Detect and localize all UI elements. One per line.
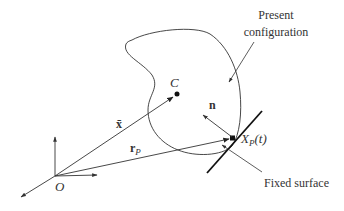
fixed-surface-label: Fixed surface <box>264 176 329 190</box>
present-config-label-line1: Present <box>258 8 294 22</box>
r-p-label: rP <box>130 141 141 157</box>
normal-label: n <box>209 98 216 112</box>
body-outline <box>125 29 240 154</box>
centroid-dot <box>175 92 180 97</box>
contact-point-label: XP(t) <box>240 131 267 148</box>
axis-out <box>21 176 55 197</box>
position-vector-point <box>55 139 229 176</box>
normal-vector <box>203 115 232 137</box>
position-vector-centroid <box>55 97 173 176</box>
axis-right <box>55 175 97 176</box>
origin-label: O <box>55 179 65 194</box>
x-bar-label: x̄ <box>116 117 122 131</box>
r-p-label-sub: P <box>134 147 141 157</box>
contact-point-label-arg: (t) <box>254 131 266 146</box>
fixed-surface-leader <box>222 145 262 172</box>
contact-mechanics-diagram: Present configuration C x̄ rP n XP(t) Fi… <box>0 0 344 211</box>
centroid-label: C <box>170 75 179 90</box>
present-config-label-line2: configuration <box>244 25 309 39</box>
